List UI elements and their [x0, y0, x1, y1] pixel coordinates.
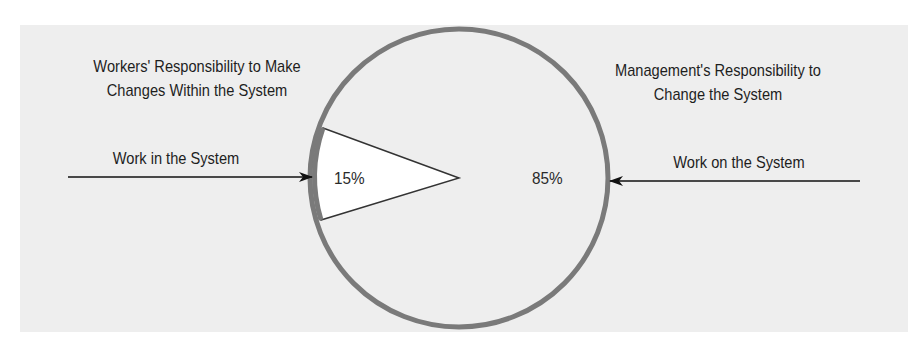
work-in-system-label: Work in the System [90, 147, 262, 171]
management-responsibility-heading: Management's Responsibility to Change th… [589, 59, 847, 107]
work-on-system-label: Work on the System [653, 151, 825, 175]
workers-responsibility-heading: Workers' Responsibility to Make Changes … [68, 55, 326, 103]
workers-heading-line1: Workers' Responsibility to Make [68, 55, 326, 79]
management-share-value: 85% [532, 168, 563, 190]
workers-heading-line2: Changes Within the System [68, 79, 326, 103]
workers-share-value: 15% [334, 168, 365, 190]
management-heading-line2: Change the System [589, 83, 847, 107]
management-heading-line1: Management's Responsibility to [589, 59, 847, 83]
responsibility-pie-diagram [0, 0, 924, 355]
